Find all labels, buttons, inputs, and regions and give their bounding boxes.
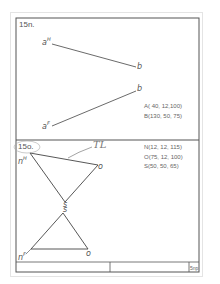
point-label-b-h: b [137,62,142,71]
problem-title-15o: 15o. [18,142,34,151]
point-label-n-f: nF [18,251,26,262]
sheet-label: 5np [190,265,198,271]
true-length-annotation: TL [93,139,106,150]
coord-a: A( 40, 12,100) [144,102,182,112]
line-ab-horizontal-view [52,44,136,67]
point-label-a-h: aH [42,36,51,47]
point-label-a-f: aF [42,120,50,131]
point-label-o-f: o [86,249,91,258]
point-label-b-f: b [137,84,142,93]
point-label-o-h: o [98,162,103,171]
coordinates-15o: N(12, 12, 115) O(75, 12, 100) S(50, 50, … [144,143,183,172]
nf-tick [26,249,31,254]
coord-b: B(130, 50, 75) [144,112,182,122]
coord-s: S(50, 50, 65) [144,162,183,172]
point-label-s-f: s [63,205,67,214]
coordinates-15n: A( 40, 12,100) B(130, 50, 75) [144,102,182,121]
tl-leader-line [68,147,92,158]
problem-title-15n: 15n. [19,20,35,29]
coord-o: O(75, 12, 100) [144,153,183,163]
point-label-n-h: nH [18,155,27,166]
triangle-nos-horizontal-view [30,153,98,202]
coord-n: N(12, 12, 115) [144,143,183,153]
triangle-nos-frontal-view [31,213,88,249]
line-ab-frontal-view [52,91,136,126]
